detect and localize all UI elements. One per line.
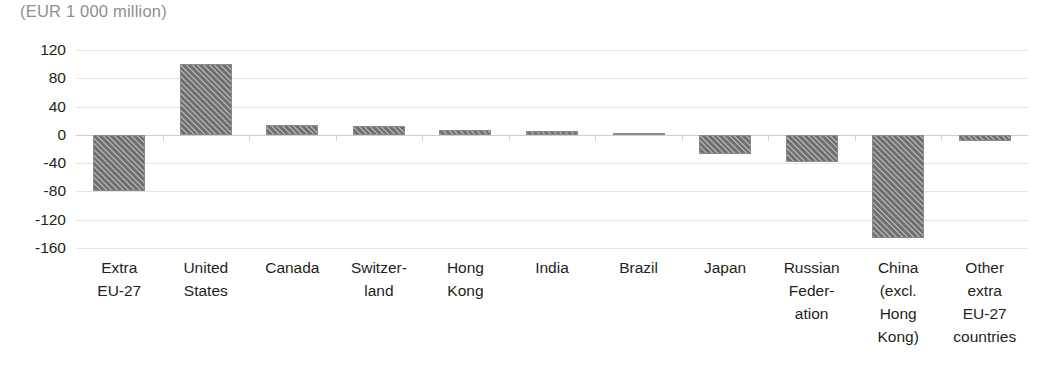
- x-tick-label-line: China: [855, 256, 942, 279]
- x-tick-label: China(excl.HongKong): [855, 256, 942, 348]
- category-tick: [249, 135, 250, 141]
- x-tick-label-line: extra: [941, 279, 1028, 302]
- x-tick-label: Canada: [249, 256, 336, 279]
- bar: [353, 126, 405, 135]
- category-tick: [509, 135, 510, 141]
- bar-slot: [941, 50, 1028, 248]
- y-tick-label: 40: [0, 98, 66, 116]
- bar: [439, 130, 491, 135]
- gridline--160: [76, 248, 1028, 249]
- x-tick-label: Brazil: [595, 256, 682, 279]
- y-tick-label: -120: [0, 211, 66, 229]
- chart-container: (EUR 1 000 million) 12080400-40-80-120-1…: [0, 0, 1058, 380]
- x-tick-label-line: Extra: [76, 256, 163, 279]
- x-tick-label: Japan: [682, 256, 769, 279]
- bar-series-balance: [76, 50, 1028, 248]
- bar-slot: [768, 50, 855, 248]
- bar-slot: [336, 50, 423, 248]
- bar: [93, 135, 145, 192]
- bar-slot: [855, 50, 942, 248]
- x-tick-label-line: Brazil: [595, 256, 682, 279]
- x-tick-label-line: countries: [941, 325, 1028, 348]
- x-tick-label-line: EU-27: [76, 279, 163, 302]
- category-tick: [941, 135, 942, 141]
- x-tick-label-line: Japan: [682, 256, 769, 279]
- category-tick: [422, 135, 423, 141]
- x-tick-label-line: land: [336, 279, 423, 302]
- x-tick-label: UnitedStates: [163, 256, 250, 302]
- category-tick: [768, 135, 769, 141]
- x-tick-label-line: ation: [768, 302, 855, 325]
- x-tick-label-line: (excl.: [855, 279, 942, 302]
- x-tick-label-line: States: [163, 279, 250, 302]
- x-tick-label-line: Kong): [855, 325, 942, 348]
- x-tick-label-line: Hong: [422, 256, 509, 279]
- x-tick-label: ExtraEU-27: [76, 256, 163, 302]
- bar: [872, 135, 924, 238]
- x-tick-label-line: Russian: [768, 256, 855, 279]
- y-axis-tick-labels: 12080400-40-80-120-160: [0, 50, 66, 248]
- y-tick-label: -40: [0, 154, 66, 172]
- category-tick: [595, 135, 596, 141]
- x-tick-label: Switzer-land: [336, 256, 423, 302]
- x-tick-label-line: Switzer-: [336, 256, 423, 279]
- category-tick: [336, 135, 337, 141]
- x-tick-label: RussianFeder-ation: [768, 256, 855, 325]
- bar: [786, 135, 838, 162]
- bar-slot: [509, 50, 596, 248]
- y-tick-label: -160: [0, 239, 66, 257]
- bar: [266, 125, 318, 135]
- x-tick-label-line: Hong: [855, 302, 942, 325]
- bar-slot: [682, 50, 769, 248]
- bar: [526, 131, 578, 135]
- x-tick-label-line: Kong: [422, 279, 509, 302]
- bar: [180, 64, 232, 135]
- category-tick: [855, 135, 856, 141]
- category-tick: [163, 135, 164, 141]
- bar: [959, 135, 1011, 141]
- y-tick-label: -80: [0, 182, 66, 200]
- bar-slot: [595, 50, 682, 248]
- y-tick-label: 120: [0, 41, 66, 59]
- bar: [613, 133, 665, 135]
- x-tick-label-line: EU-27: [941, 302, 1028, 325]
- bar-slot: [249, 50, 336, 248]
- y-tick-label: 0: [0, 126, 66, 144]
- x-tick-label: HongKong: [422, 256, 509, 302]
- x-tick-label-line: Canada: [249, 256, 336, 279]
- bar-slot: [422, 50, 509, 248]
- bar-slot: [163, 50, 250, 248]
- x-axis-tick-labels: ExtraEU-27UnitedStatesCanadaSwitzer-land…: [76, 256, 1028, 376]
- x-tick-label: India: [509, 256, 596, 279]
- x-tick-label-line: United: [163, 256, 250, 279]
- x-tick-label-line: India: [509, 256, 596, 279]
- bar: [699, 135, 751, 154]
- y-tick-label: 80: [0, 69, 66, 87]
- x-tick-label-line: Other: [941, 256, 1028, 279]
- category-tick: [682, 135, 683, 141]
- bar-slot: [76, 50, 163, 248]
- x-tick-label: OtherextraEU-27countries: [941, 256, 1028, 348]
- chart-title: (EUR 1 000 million): [20, 2, 167, 21]
- x-tick-label-line: Feder-: [768, 279, 855, 302]
